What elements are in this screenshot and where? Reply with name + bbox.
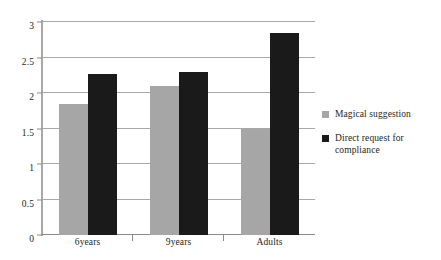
x-axis-category-labels: 6years9yearsAdults <box>42 238 315 248</box>
bar-9years-series-1[interactable] <box>179 72 208 235</box>
plot-area <box>42 22 315 235</box>
x-axis-label-6years: 6years <box>42 238 133 248</box>
bar-6years-series-1[interactable] <box>88 74 117 235</box>
chart-legend: Magical suggestionDirect request for com… <box>322 108 440 168</box>
bar-groups <box>42 22 315 235</box>
bar-group <box>133 22 224 235</box>
bar-group <box>42 22 133 235</box>
bar-9years-series-0[interactable] <box>150 86 179 235</box>
legend-item[interactable]: Magical suggestion <box>322 108 440 120</box>
legend-item[interactable]: Direct request for compliance <box>322 132 440 156</box>
legend-swatch-icon <box>322 135 329 142</box>
bar-chart-figure: 00.511.522.53 6years9yearsAdults Magical… <box>0 0 441 260</box>
x-axis-label-9years: 9years <box>133 238 224 248</box>
y-axis-tick-labels: 00.511.522.53 <box>0 22 42 235</box>
x-axis-label-adults: Adults <box>224 238 315 248</box>
bar-adults-series-1[interactable] <box>270 33 299 235</box>
bar-6years-series-0[interactable] <box>59 104 88 235</box>
legend-swatch-icon <box>322 111 329 118</box>
bar-adults-series-0[interactable] <box>241 129 270 236</box>
legend-label: Magical suggestion <box>335 108 411 120</box>
bar-group <box>224 22 315 235</box>
legend-label: Direct request for compliance <box>335 132 440 156</box>
